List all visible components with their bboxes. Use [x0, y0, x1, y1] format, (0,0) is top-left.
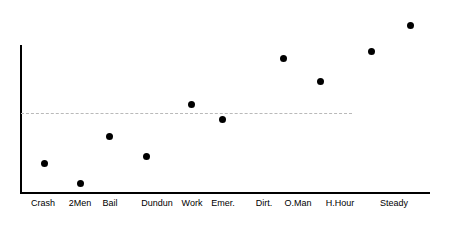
data-point [143, 153, 150, 160]
data-point [407, 22, 414, 29]
x-tick-label: Dirt. [256, 198, 273, 209]
x-tick-label: Emer. [211, 198, 235, 209]
y-axis-line [20, 45, 22, 194]
x-tick-label: H.Hour [326, 198, 355, 209]
x-axis-line [20, 192, 430, 194]
data-point [188, 101, 195, 108]
x-tick-label: Crash [31, 198, 55, 209]
data-point [219, 116, 226, 123]
data-point [280, 55, 287, 62]
x-tick-label: 2Men [69, 198, 92, 209]
data-point [317, 78, 324, 85]
data-point [41, 160, 48, 167]
plot-area: Crash2MenBailDundunWorkEmer.Dirt.O.ManH.… [0, 0, 449, 225]
reference-line-dashed [21, 113, 352, 114]
data-point [106, 133, 113, 140]
scatter-chart: Crash2MenBailDundunWorkEmer.Dirt.O.ManH.… [0, 0, 449, 225]
x-tick-label: Work [182, 198, 203, 209]
x-tick-label: Steady [380, 198, 408, 209]
x-tick-label: Dundun [141, 198, 173, 209]
data-point [77, 180, 84, 187]
x-tick-label: O.Man [284, 198, 311, 209]
data-point [368, 48, 375, 55]
x-tick-label: Bail [102, 198, 117, 209]
